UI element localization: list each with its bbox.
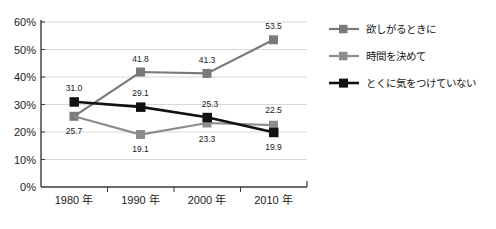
data-point-marker bbox=[136, 102, 146, 112]
legend-item-tokuni-ki-wo-tsuketeinai[interactable]: とくに気をつけていない bbox=[329, 77, 476, 89]
data-point-marker bbox=[269, 35, 278, 44]
data-point-marker bbox=[136, 130, 145, 139]
legend-item-hoshigaru-toki-ni[interactable]: 欲しがるときに bbox=[329, 23, 436, 35]
chart-canvas: 60% 50% 40% 30% 20% 10% 0% 1980 年 1990 年… bbox=[0, 0, 496, 229]
legend-label: 時間を決めて bbox=[366, 50, 426, 62]
data-point-marker bbox=[269, 128, 279, 138]
y-tick-label: 20% bbox=[14, 126, 36, 138]
data-point-label: 29.1 bbox=[132, 88, 149, 98]
data-point-label: 22.5 bbox=[265, 105, 282, 115]
legend-marker-icon bbox=[339, 25, 348, 34]
x-tick-label: 1980 年 bbox=[55, 193, 94, 206]
data-point-marker bbox=[70, 97, 80, 107]
line-chart: 60% 50% 40% 30% 20% 10% 0% 1980 年 1990 年… bbox=[0, 0, 496, 229]
x-tick-label: 1990 年 bbox=[121, 193, 160, 206]
legend-marker-icon bbox=[339, 79, 348, 88]
y-tick-label: 30% bbox=[14, 99, 36, 111]
data-point-label: 31.0 bbox=[66, 83, 83, 93]
y-axis-labels: 60% 50% 40% 30% 20% 10% 0% bbox=[14, 16, 36, 193]
series-tokuni-ki-wo-tsuketeinai: 31.0 29.1 25.3 19.9 bbox=[66, 83, 282, 152]
data-point-label: 53.5 bbox=[265, 21, 282, 31]
data-point-label: 41.3 bbox=[199, 55, 216, 65]
legend-label: 欲しがるときに bbox=[366, 23, 436, 35]
x-tick-label: 2000 年 bbox=[188, 193, 227, 206]
legend-marker-icon bbox=[339, 52, 348, 61]
data-point-marker bbox=[136, 68, 145, 77]
data-point-label: 41.8 bbox=[132, 54, 149, 64]
series-hoshigaru-toki-ni: 25.7 41.8 41.3 53.5 bbox=[66, 21, 282, 136]
y-tick-label: 10% bbox=[14, 154, 36, 166]
y-tick-label: 0% bbox=[20, 181, 36, 193]
data-point-marker bbox=[203, 69, 212, 78]
data-point-label: 25.7 bbox=[66, 126, 83, 136]
legend-label: とくに気をつけていない bbox=[366, 77, 476, 89]
y-tick-label: 60% bbox=[14, 16, 36, 28]
data-point-label: 23.3 bbox=[199, 134, 216, 144]
x-axis-labels: 1980 年 1990 年 2000 年 2010 年 bbox=[55, 193, 293, 206]
data-point-label: 19.1 bbox=[132, 144, 149, 154]
data-point-marker bbox=[203, 113, 213, 123]
data-point-label: 19.9 bbox=[265, 142, 282, 152]
data-point-label: 25.3 bbox=[202, 99, 219, 109]
y-tick-label: 50% bbox=[14, 44, 36, 56]
x-tick-label: 2010 年 bbox=[254, 193, 293, 206]
legend-item-jikan-wo-kimete[interactable]: 時間を決めて bbox=[329, 50, 426, 62]
y-tick-label: 40% bbox=[14, 71, 36, 83]
chart-legend: 欲しがるときに 時間を決めて とくに気をつけていない bbox=[329, 23, 476, 89]
